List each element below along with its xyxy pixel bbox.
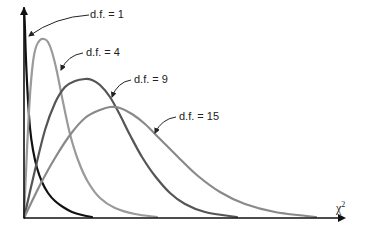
- curve-df-4: [24, 39, 157, 218]
- chi-square-chart: d.f. = 1d.f. = 4d.f. = 9d.f. = 15 χ2: [0, 0, 366, 232]
- curve-df-1: [24, 8, 92, 217]
- label-df-9: d.f. = 9: [134, 73, 168, 85]
- leader-arrow-df-1: [29, 15, 89, 36]
- curve-df-9: [24, 79, 237, 218]
- x-axis-label: χ2: [335, 200, 345, 215]
- curves-group: [24, 8, 316, 218]
- leader-arrow-df-4: [61, 53, 83, 70]
- label-df-1: d.f. = 1: [90, 8, 124, 20]
- leader-arrow-df-15: [155, 117, 176, 133]
- label-df-15: d.f. = 15: [179, 110, 219, 122]
- leader-arrow-df-9: [112, 80, 131, 97]
- label-df-4: d.f. = 4: [86, 46, 120, 58]
